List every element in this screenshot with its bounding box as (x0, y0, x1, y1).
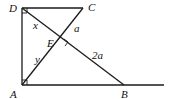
label-D: D (8, 2, 17, 14)
label-A: A (9, 88, 17, 99)
label-segment-EB: 2a (92, 49, 104, 61)
geometry-diagram: D C A B E x y a 2a (0, 0, 179, 99)
label-E: E (46, 37, 54, 49)
label-segment-DE: x (32, 19, 38, 31)
label-segment-AE: y (34, 53, 40, 65)
label-segment-CE: a (74, 22, 80, 34)
label-B: B (121, 88, 128, 99)
label-C: C (88, 1, 96, 13)
